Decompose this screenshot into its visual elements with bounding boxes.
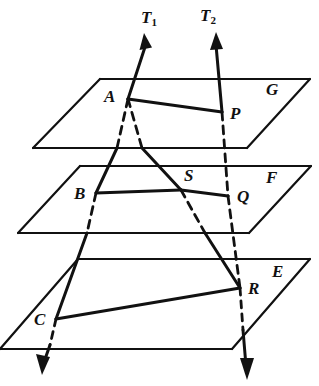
label-vector-t1-subscript: 1: [151, 16, 157, 28]
label-point-b: B: [74, 185, 85, 202]
plane-e-outline: [0, 259, 310, 349]
segment-a-s-visible: [142, 148, 181, 190]
segment-c-r: [56, 288, 240, 319]
segment-s-r-hidden: [181, 190, 205, 233]
label-vector-t1-letter: T: [141, 8, 151, 27]
label-point-s: S: [184, 167, 193, 184]
figure-canvas: [0, 0, 319, 386]
arrowhead-t1-up: [140, 33, 153, 50]
transversal-t2: [210, 32, 254, 380]
label-point-q: Q: [237, 188, 249, 205]
segment-b-s: [96, 190, 181, 193]
arrowhead-t1-down: [36, 354, 50, 375]
segment-s-q: [181, 190, 228, 196]
label-plane-e: E: [272, 263, 283, 280]
label-plane-g: G: [266, 81, 278, 98]
label-point-a: A: [104, 88, 115, 105]
label-vector-t2: T2: [200, 7, 216, 24]
label-vector-t1: T1: [141, 9, 157, 26]
label-point-c: C: [34, 311, 45, 328]
label-plane-f: F: [266, 169, 277, 186]
segment-a-p: [128, 99, 222, 112]
label-vector-t2-letter: T: [200, 6, 210, 25]
label-vector-t2-subscript: 2: [210, 14, 216, 26]
arrowhead-t2-up: [210, 32, 223, 50]
label-point-p: P: [230, 105, 240, 122]
segment-a-s-hidden: [128, 99, 142, 148]
arrowhead-t2-down: [240, 358, 254, 380]
label-point-r: R: [248, 280, 259, 297]
geometry-figure: T1 T2 G F E A P B S Q C R: [0, 0, 319, 386]
